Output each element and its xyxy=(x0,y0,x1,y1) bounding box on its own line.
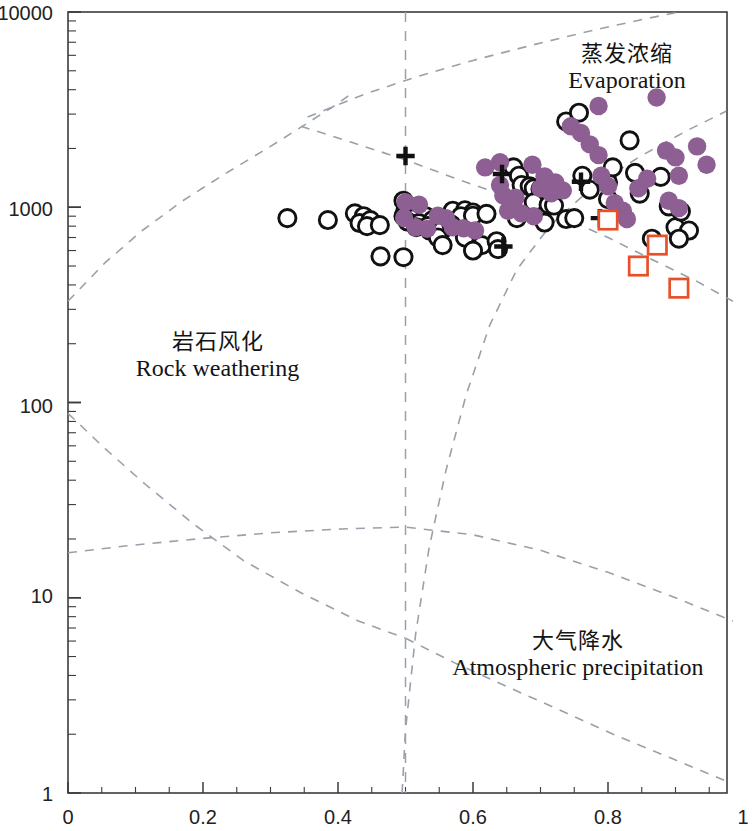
x-tick-0: 0 xyxy=(48,806,88,829)
data-point-open-circle xyxy=(319,211,336,228)
data-point-filled-circle xyxy=(688,137,706,155)
x-tick-0-6: 0.6 xyxy=(453,806,493,829)
data-point-open-square xyxy=(599,211,617,229)
data-point-filled-circle xyxy=(525,207,543,225)
y-tick-10: 10 xyxy=(0,585,53,608)
data-point-filled-circle xyxy=(670,167,688,185)
region-label-rock-weathering-cn: 岩石风化 xyxy=(95,330,340,355)
boundary-lower-left-arm xyxy=(68,413,406,638)
data-point-open-square xyxy=(648,236,666,254)
data-point-open-circle xyxy=(395,249,412,266)
data-point-open-circle xyxy=(621,132,638,149)
data-point-open-circle xyxy=(566,209,583,226)
region-label-evaporation-cn: 蒸发浓缩 xyxy=(512,42,742,67)
data-point-filled-circle xyxy=(618,210,636,228)
data-point-open-circle xyxy=(478,205,495,222)
x-tick-1: 1 xyxy=(723,806,753,829)
y-tick-1000: 1000 xyxy=(0,198,53,221)
data-point-filled-circle xyxy=(546,173,564,191)
region-label-atmospheric-precipitation-cn: 大气降水 xyxy=(430,629,726,654)
data-point-filled-circle xyxy=(410,196,428,214)
y-tick-100: 100 xyxy=(0,395,53,418)
region-label-rock-weathering-en: Rock weathering xyxy=(95,355,340,382)
data-point-open-square xyxy=(629,257,647,275)
data-point-filled-circle xyxy=(589,146,607,164)
data-point-open-square xyxy=(670,279,688,297)
data-point-open-circle xyxy=(434,236,451,253)
boundary-precip-upper-arm xyxy=(68,527,733,621)
data-point-filled-circle xyxy=(670,199,688,217)
x-tick-0-2: 0.2 xyxy=(183,806,223,829)
data-point-open-circle xyxy=(279,209,296,226)
data-point-filled-circle xyxy=(466,221,484,239)
data-point-plus xyxy=(396,147,414,165)
data-point-open-circle xyxy=(371,217,388,234)
data-point-filled-circle xyxy=(697,156,715,174)
data-point-open-circle xyxy=(670,230,687,247)
region-label-rock-weathering: 岩石风化 Rock weathering xyxy=(95,330,340,382)
x-tick-0-8: 0.8 xyxy=(588,806,628,829)
region-label-evaporation: 蒸发浓缩 Evaporation xyxy=(512,42,742,94)
data-point-filled-circle xyxy=(666,148,684,166)
x-axis-title: 图例 xyxy=(330,824,410,831)
data-point-open-circle xyxy=(372,248,389,265)
y-tick-10000: 10000 xyxy=(0,2,53,25)
region-label-atmospheric-precipitation-en: Atmospheric precipitation xyxy=(430,654,726,681)
data-point-open-circle xyxy=(464,242,481,259)
data-point-filled-circle xyxy=(599,177,617,195)
data-point-filled-circle xyxy=(638,170,656,188)
y-tick-1: 1 xyxy=(0,783,53,806)
region-label-evaporation-en: Evaporation xyxy=(512,67,742,94)
region-label-atmospheric-precipitation: 大气降水 Atmospheric precipitation xyxy=(430,629,726,681)
data-point-filled-circle xyxy=(589,97,607,115)
boundary-upper-left-arm xyxy=(68,91,355,301)
data-marker-group xyxy=(279,88,716,297)
